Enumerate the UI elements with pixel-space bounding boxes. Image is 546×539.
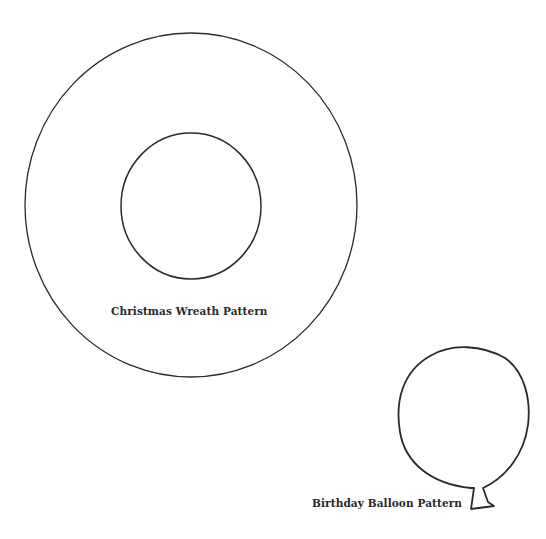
wreath-inner-circle (121, 133, 261, 279)
pattern-sheet (0, 0, 546, 539)
wreath-outer-circle (25, 33, 357, 377)
balloon-pattern-label: Birthday Balloon Pattern (312, 497, 462, 509)
balloon-outline (399, 347, 529, 509)
wreath-pattern-label: Christmas Wreath Pattern (111, 305, 268, 317)
